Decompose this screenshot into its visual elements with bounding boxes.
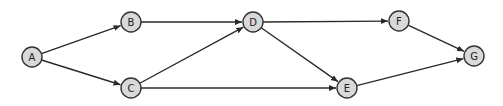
node-label: B [128,17,135,28]
node-a: A [22,47,42,67]
directed-graph: ABCDEFG [0,0,503,106]
edge-e-g [357,59,464,86]
node-label: G [470,51,478,62]
node-c: C [121,78,141,98]
node-label: C [128,83,135,94]
graph-canvas: ABCDEFG [0,0,503,106]
node-label: A [29,52,36,63]
node-b: B [121,12,141,32]
node-g: G [464,46,484,66]
node-label: E [344,83,350,94]
edge-f-g [408,25,464,51]
edge-a-c [42,60,121,85]
node-e: E [337,78,357,98]
edge-d-f [263,21,388,22]
node-d: D [243,12,263,32]
edge-a-b [41,26,120,54]
nodes-layer: ABCDEFG [22,11,484,98]
edge-c-d [140,27,244,83]
node-label: D [249,17,257,28]
edge-d-e [261,28,338,82]
node-label: F [396,16,402,27]
node-f: F [389,11,409,31]
